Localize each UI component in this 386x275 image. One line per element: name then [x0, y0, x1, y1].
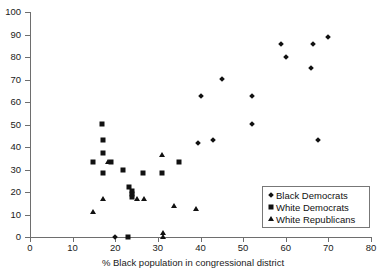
data-point: [171, 203, 177, 208]
y-tick-label: 60: [1, 97, 21, 107]
y-axis-line: [30, 12, 31, 238]
legend-item-label: White Republicans: [276, 214, 355, 225]
data-point: [160, 234, 166, 239]
data-point: [159, 152, 165, 157]
data-point: [177, 159, 182, 164]
y-tick-label: 20: [1, 187, 21, 197]
y-tick-label: 30: [1, 165, 21, 175]
y-tick-label: 40: [1, 142, 21, 152]
data-point: [160, 170, 165, 175]
y-tick-label: 50: [1, 120, 21, 130]
y-tick: [25, 147, 30, 148]
y-tick-label: 0: [1, 232, 21, 242]
data-point: [101, 138, 106, 143]
data-point: [141, 196, 147, 201]
x-tick-label: 10: [61, 243, 85, 253]
y-tick-label: 100: [1, 7, 21, 17]
triangle-marker-icon: [267, 214, 276, 224]
data-point: [90, 209, 96, 214]
data-point: [140, 170, 145, 175]
x-tick-label: 60: [274, 243, 298, 253]
x-tick-label: 50: [231, 243, 255, 253]
legend-item[interactable]: White Republicans: [267, 213, 366, 225]
y-tick-label: 90: [1, 30, 21, 40]
data-point: [120, 167, 125, 172]
legend-item-label: Black Democrats: [276, 190, 348, 201]
y-tick-label: 10: [1, 210, 21, 220]
x-tick-label: 40: [189, 243, 213, 253]
y-tick: [25, 35, 30, 36]
legend-item[interactable]: White Democrats: [267, 201, 366, 213]
y-tick: [25, 102, 30, 103]
y-tick: [25, 215, 30, 216]
legend-item-label: White Democrats: [276, 202, 349, 213]
y-tick: [25, 12, 30, 13]
diamond-marker-icon: [267, 190, 276, 200]
data-point: [100, 196, 106, 201]
scatter-chart: 0102030405060708090100 01020304050607080…: [0, 0, 386, 275]
x-tick-label: 70: [316, 243, 340, 253]
square-marker-icon: [267, 202, 276, 212]
data-point: [160, 230, 166, 235]
chart-legend: Black DemocratsWhite DemocratsWhite Repu…: [262, 186, 370, 228]
data-point: [100, 122, 105, 127]
x-axis-label: % Black population in congressional dist…: [0, 257, 386, 268]
data-point: [105, 159, 111, 164]
data-point: [91, 160, 96, 165]
y-tick-label: 80: [1, 52, 21, 62]
legend-item[interactable]: Black Democrats: [267, 189, 366, 201]
y-tick-label: 70: [1, 75, 21, 85]
y-tick: [25, 170, 30, 171]
y-tick: [25, 125, 30, 126]
data-point: [101, 150, 106, 155]
y-tick: [25, 192, 30, 193]
data-point: [101, 170, 106, 175]
data-point: [193, 206, 199, 211]
x-tick-label: 30: [146, 243, 170, 253]
y-tick: [25, 57, 30, 58]
data-point: [126, 235, 131, 240]
x-tick-label: 0: [18, 243, 42, 253]
x-tick-label: 80: [359, 243, 383, 253]
y-tick: [25, 80, 30, 81]
x-tick-label: 20: [103, 243, 127, 253]
data-point: [134, 196, 140, 201]
